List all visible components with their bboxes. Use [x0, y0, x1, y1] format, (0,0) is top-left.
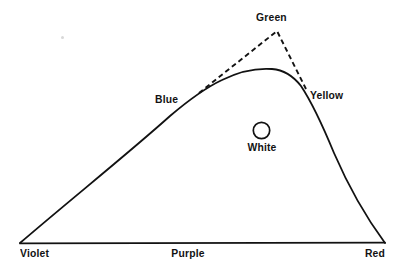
label-green: Green [256, 11, 287, 23]
white-point-circle [253, 122, 269, 138]
figure-canvas: Green Blue Yellow White Violet Purple Re… [0, 0, 401, 275]
label-purple: Purple [171, 247, 204, 259]
chromaticity-diagram [0, 0, 401, 275]
label-red: Red [365, 247, 385, 259]
label-white: White [247, 141, 276, 153]
scan-speck [61, 36, 64, 39]
purple-line [20, 243, 385, 244]
label-violet: Violet [20, 247, 49, 259]
label-yellow: Yellow [310, 89, 343, 101]
label-blue: Blue [155, 93, 178, 105]
